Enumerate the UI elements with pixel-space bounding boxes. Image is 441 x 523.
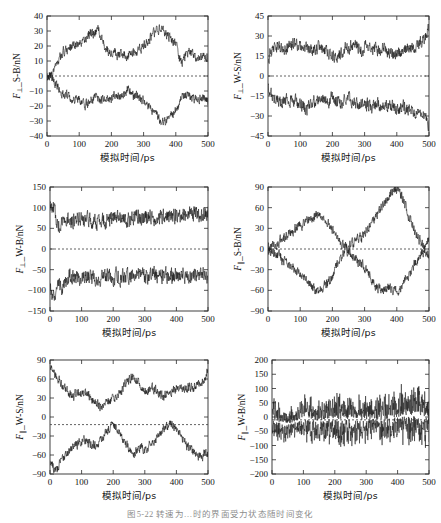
subplot-panel-4: −90−60−3003060900100200300400500模拟时间/psF… (220, 173, 441, 348)
y-axis-label: F∥_W-S/nN (15, 394, 27, 441)
x-tick-label: 300 (359, 477, 373, 487)
svg-text:F∥_S-B/nN: F∥_S-B/nN (233, 227, 245, 272)
y-tick-label: 30 (34, 26, 44, 36)
y-tick-label: −10 (29, 86, 44, 96)
y-tick-label: −30 (250, 111, 265, 121)
data-lines (268, 24, 429, 131)
x-tick-label: 100 (297, 477, 311, 487)
figure-caption: 图5-22 转速为…时的界面受力状态随时间变化 (0, 508, 441, 523)
y-tick-label: −100 (27, 285, 46, 295)
data-lines (272, 384, 429, 448)
y-tick-label: −200 (249, 469, 268, 479)
y-tick-label: 20 (34, 41, 44, 51)
x-tick-label: 0 (266, 314, 271, 324)
x-tick-label: 200 (326, 314, 340, 324)
data-line (47, 25, 208, 80)
x-tick-label: 500 (201, 477, 215, 487)
data-line (268, 245, 429, 296)
subplot-panel-3: −150−100−500501001500100200300400500模拟时间… (0, 173, 220, 348)
force-time-series-figure: −40−30−20−100102030400100200300400500模拟时… (0, 0, 441, 523)
y-axis-label: F⊥_S-B/nN (12, 53, 23, 100)
data-line (50, 421, 208, 473)
x-tick-label: 400 (170, 314, 184, 324)
data-line (268, 84, 429, 131)
x-tick-label: 200 (328, 477, 342, 487)
subplot-panel-1: −40−30−20−100102030400100200300400500模拟时… (0, 0, 220, 173)
subplot-panel-2: −45−30−1501530450100200300400500模拟时间/psF… (220, 0, 441, 173)
subplot-6-svg: −200−150−100−500501001502000100200300400… (220, 348, 441, 508)
x-tick-label: 500 (422, 314, 436, 324)
subplot-panel-5: −90−60−3003060900100200300400500模拟时间/psF… (0, 348, 220, 508)
data-lines (50, 365, 208, 472)
y-axis-label: F⊥_W-B/nN (15, 224, 26, 274)
y-tick-label: −150 (249, 455, 268, 465)
y-tick-label: −30 (250, 265, 265, 275)
data-lines (47, 25, 208, 126)
x-tick-label: 400 (170, 477, 184, 487)
y-tick-label: 100 (255, 384, 269, 394)
x-tick-label: 400 (169, 139, 183, 149)
x-tick-label: 300 (138, 314, 152, 324)
y-tick-label: 30 (255, 223, 265, 233)
y-axis-label: F∥_W-B/nN (237, 393, 249, 441)
data-line (47, 73, 208, 126)
y-tick-label: 60 (37, 374, 47, 384)
svg-text:F⊥_W-B/nN: F⊥_W-B/nN (15, 224, 26, 274)
x-tick-label: 400 (391, 477, 405, 487)
plot-frame (50, 187, 208, 311)
y-tick-label: 90 (37, 355, 47, 365)
y-tick-label: −60 (250, 285, 265, 295)
data-line (272, 384, 429, 423)
svg-text:F∥_W-B/nN: F∥_W-B/nN (237, 393, 249, 441)
x-tick-label: 0 (48, 314, 53, 324)
x-tick-label: 200 (106, 314, 120, 324)
x-tick-label: 100 (75, 477, 89, 487)
y-tick-label: −20 (29, 101, 44, 111)
y-tick-label: −40 (29, 131, 44, 141)
y-tick-label: −45 (250, 131, 265, 141)
y-tick-label: −50 (32, 265, 47, 275)
svg-text:F⊥_S-B/nN: F⊥_S-B/nN (12, 53, 23, 100)
data-line (50, 365, 208, 411)
x-tick-label: 200 (106, 477, 120, 487)
y-tick-label: −90 (250, 306, 265, 316)
data-line (268, 24, 429, 64)
y-tick-label: 200 (255, 355, 269, 365)
y-tick-label: 40 (34, 11, 44, 21)
y-axis-label: F⊥_W-S/nN (233, 52, 244, 101)
data-lines (268, 186, 429, 296)
data-line (268, 186, 429, 253)
x-tick-label: 300 (138, 477, 152, 487)
x-tick-label: 100 (75, 314, 89, 324)
y-tick-label: 50 (37, 223, 47, 233)
y-tick-label: 0 (260, 244, 265, 254)
x-tick-label: 0 (45, 139, 50, 149)
y-tick-label: −60 (32, 450, 47, 460)
x-tick-label: 100 (72, 139, 86, 149)
y-tick-label: 150 (255, 369, 269, 379)
x-tick-label: 300 (358, 314, 372, 324)
y-tick-label: 0 (260, 71, 265, 81)
y-tick-label: −15 (250, 91, 265, 101)
y-tick-label: 0 (264, 412, 269, 422)
x-axis-label: 模拟时间/ps (321, 152, 375, 163)
y-tick-label: 50 (259, 398, 269, 408)
svg-text:F⊥_W-S/nN: F⊥_W-S/nN (233, 52, 244, 101)
x-axis-label: 模拟时间/ps (323, 490, 377, 501)
x-tick-label: 300 (137, 139, 151, 149)
y-tick-label: 90 (255, 182, 265, 192)
y-tick-label: 0 (39, 71, 44, 81)
x-tick-label: 400 (390, 139, 404, 149)
x-axis-label: 模拟时间/ps (100, 152, 154, 163)
x-tick-label: 300 (358, 139, 372, 149)
y-tick-label: −90 (32, 469, 47, 479)
y-tick-label: −150 (27, 306, 46, 316)
x-tick-label: 0 (270, 477, 275, 487)
x-tick-label: 500 (201, 314, 215, 324)
y-tick-label: 30 (37, 393, 47, 403)
x-tick-label: 500 (422, 477, 436, 487)
x-tick-label: 100 (293, 314, 307, 324)
y-tick-label: 30 (255, 31, 265, 41)
subplot-4-svg: −90−60−3003060900100200300400500模拟时间/psF… (220, 173, 441, 348)
y-tick-label: −50 (254, 426, 269, 436)
